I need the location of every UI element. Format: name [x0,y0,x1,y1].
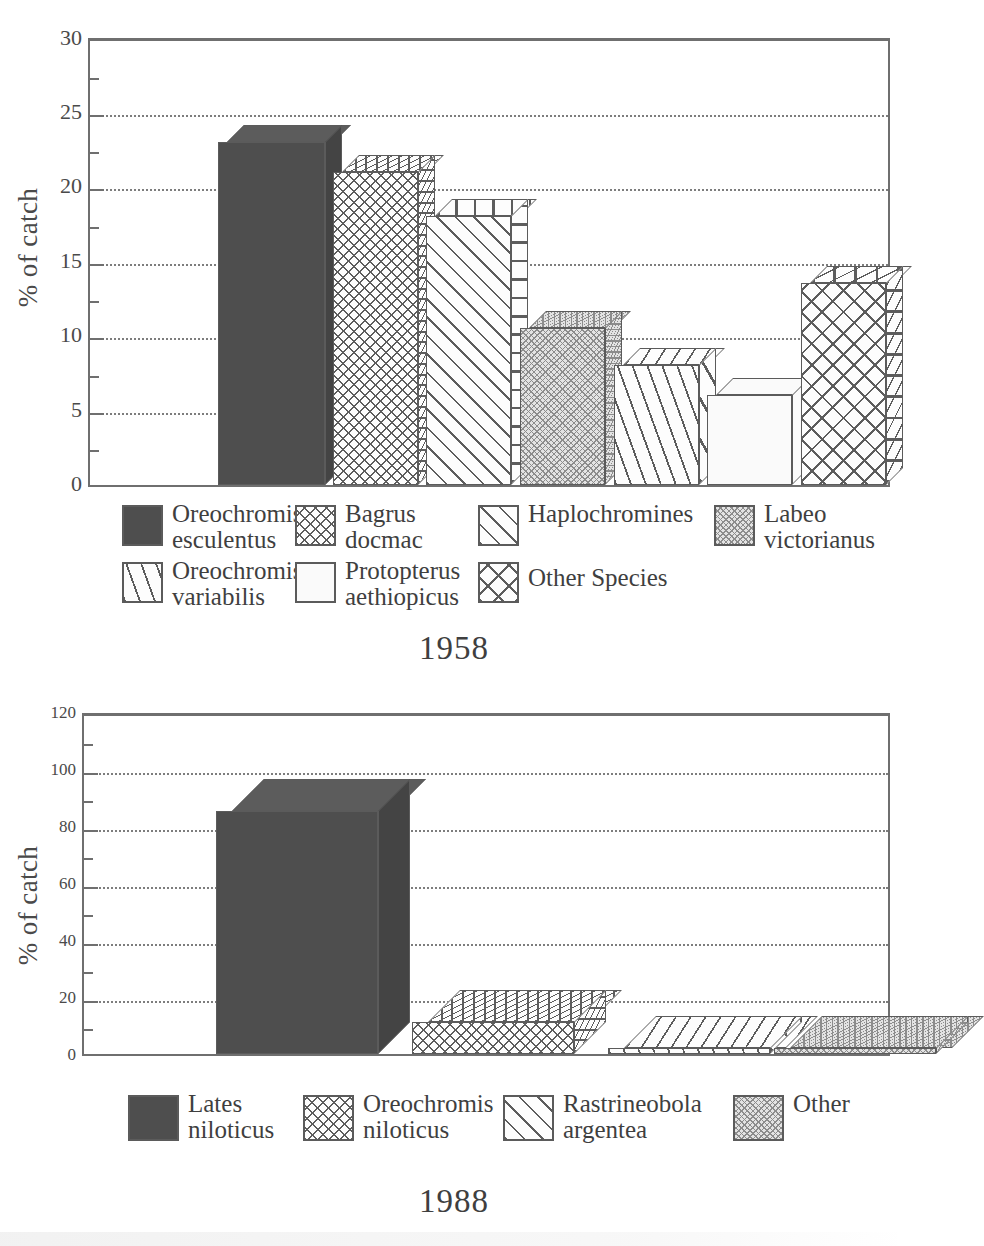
axis-tick [84,972,93,974]
legend-item-protopterus-aethiopicus: Protopterus aethiopicus [295,562,460,610]
panel-year-1988: 1988 [0,1183,908,1220]
legend-label: Bagrus docmac [345,501,423,553]
bar-front-face [520,328,605,485]
bar-oreochromis-niloticus [412,1022,574,1054]
y-tick-label: 10 [0,322,82,348]
panel-1988: % of catch 120 100 80 60 40 20 0 [0,690,908,1246]
gridline [90,189,888,191]
bar-haplochromines [426,216,511,485]
axis-tick [84,801,93,803]
y-tick-label: 60 [0,874,76,894]
y-tick-label: 20 [0,988,76,1008]
axis-tick [84,858,93,860]
y-tick-label: 40 [0,931,76,951]
legend-item-labeo-victorianus: Labeo victorianus [714,505,875,553]
axis-tick [90,189,104,191]
y-axis-title-1988: % of catch [13,816,44,996]
legend-swatch-solid-icon [128,1095,179,1141]
legend-swatch-hbars-icon [122,562,163,603]
y-tick-label: 80 [0,817,76,837]
bar-front-face [216,811,378,1054]
legend-item-oreochromis-niloticus: Oreochromis niloticus [303,1095,494,1143]
gridline [84,773,888,775]
axis-tick [84,1001,98,1003]
legend-item-haplochromines: Haplochromines [478,505,693,546]
axis-tick [84,744,93,746]
legend-swatch-dots-icon [733,1095,784,1141]
gridline [84,944,888,946]
bar-front-face [614,365,699,485]
bar-protopterus-aethiopicus [707,395,792,485]
bar-front-face [412,1022,574,1054]
bar-front-face [801,283,886,485]
legend-swatch-crosshatch-icon [295,505,336,546]
legend-swatch-solid-icon [122,505,163,546]
bar-side-face [886,266,903,485]
bar-oreochromis-variabilis [614,365,699,485]
legend-item-bagrus-docmac: Bagrus docmac [295,505,423,553]
bar-side-face [378,779,410,1054]
legend-item-other-species: Other Species [478,562,668,603]
bar-front-face [774,1048,936,1054]
legend-item-rastrineobola-argentea: Rastrineobola argentea [503,1095,702,1143]
y-tick-label: 0 [0,1045,76,1065]
legend-label: Other [793,1091,850,1117]
bar-front-face [608,1048,770,1054]
legend-swatch-crosshatch-icon [303,1095,354,1141]
legend-label: Other Species [528,565,668,591]
legend-label: Oreochromis variabilis [172,558,303,610]
legend-label: Haplochromines [528,501,693,527]
axis-tick [90,338,104,340]
legend-label: Rastrineobola argentea [563,1091,702,1143]
axis-tick [90,450,99,452]
axis-tick [84,915,93,917]
legend-swatch-white-icon [295,562,336,603]
gridline [84,887,888,889]
axis-tick [90,376,99,378]
axis-tick [84,1029,93,1031]
y-tick-label: 120 [0,703,76,723]
bar-front-face [218,142,325,485]
legend-label: Oreochromis niloticus [363,1091,494,1143]
legend-item-oreochromis-esculentus: Oreochromis esculentus [122,505,303,553]
plot-area-1988 [82,713,890,1056]
legend-item-oreochromis-variabilis: Oreochromis variabilis [122,562,303,610]
panel-1958: % of catch 30 25 20 15 10 5 0 [0,0,908,690]
gridline [90,115,888,117]
y-tick-label: 0 [0,471,82,497]
bar-front-face [333,172,418,485]
page-caption-edge [0,1232,908,1246]
y-tick-label: 20 [0,173,82,199]
bar-oreochromis-esculentus [218,142,325,485]
bar-bagrus-docmac [333,172,418,485]
gridline [84,830,888,832]
axis-tick [84,830,98,832]
legend-item-other: Other [733,1095,850,1141]
legend-swatch-diaghatch-icon [478,505,519,546]
bar-labeo-victorianus [520,328,605,485]
panel-year-1958: 1958 [0,630,908,667]
bar-front-face [426,216,511,485]
legend-label: Labeo victorianus [764,501,875,553]
plot-area-1958 [88,38,890,487]
axis-tick [84,944,98,946]
legend-swatch-dots-icon [714,505,755,546]
y-tick-label: 15 [0,248,82,274]
axis-tick [90,301,99,303]
axis-tick [90,152,99,154]
y-tick-label: 30 [0,25,82,51]
axis-tick [90,115,104,117]
legend-label: Lates niloticus [188,1091,274,1143]
y-tick-label: 25 [0,99,82,125]
axis-tick [90,78,99,80]
legend-swatch-diaghatch-icon [503,1095,554,1141]
legend-item-lates-niloticus: Lates niloticus [128,1095,274,1143]
bar-rastrineobola-argentea [608,1048,770,1054]
bar-other [774,1048,936,1054]
legend-swatch-bigx-icon [478,562,519,603]
axis-tick [84,773,98,775]
y-tick-label: 5 [0,397,82,423]
axis-tick [90,413,104,415]
axis-tick [84,887,98,889]
